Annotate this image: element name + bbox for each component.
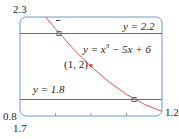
point-label: (1, 2): [64, 59, 88, 70]
x-min-label: 0.8: [3, 111, 17, 122]
y-min-label: 1.7: [13, 123, 27, 134]
point-1-2: [89, 64, 93, 68]
curve-label: y = x3 − 5x + 6: [83, 43, 151, 55]
y-max-label: 2.3: [13, 4, 27, 15]
curve-label-suffix: − 5x + 6: [109, 43, 151, 55]
line-lower-label: y = 1.8: [33, 84, 65, 95]
x-max-label: 1.2: [165, 107, 179, 118]
curve-label-prefix: y = x: [83, 43, 106, 55]
line-upper-label: y = 2.2: [123, 21, 155, 32]
